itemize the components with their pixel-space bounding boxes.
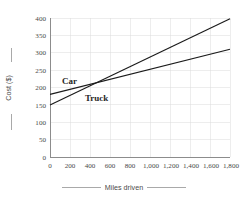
x-tick-label: 1,600 [203,162,219,170]
x-tick-label: 1,400 [183,162,199,170]
x-tick-label: 1,200 [163,162,179,170]
x-tick-label: 0 [48,162,52,170]
chart-container: 400 350 300 250 200 150 100 50 0 0 200 4… [0,0,248,200]
line-chart: 400 350 300 250 200 150 100 50 0 0 200 4… [0,0,248,200]
y-tick-label: 0 [42,154,46,162]
y-tick-label: 150 [35,102,46,110]
x-axis-title: Miles driven [105,183,143,192]
y-tick-label: 100 [35,119,46,127]
y-tick-label: 250 [35,67,46,75]
y-tick-labels: 400 350 300 250 200 150 100 50 0 [35,15,46,162]
x-tick-label: 400 [85,162,96,170]
y-axis-title: Cost ($) [4,75,13,101]
x-tick-label: 200 [65,162,76,170]
series-label-car: Car [62,76,77,86]
x-tick-label: 600 [105,162,116,170]
y-tick-label: 200 [35,84,46,92]
y-tick-label: 350 [35,32,46,40]
y-tick-label: 400 [35,15,46,23]
x-tick-label: 800 [125,162,136,170]
y-tick-label: 300 [35,49,46,57]
y-tick-label: 50 [39,136,47,144]
x-tick-labels: 0 200 400 600 800 1,000 1,200 1,400 1,60… [48,162,239,170]
x-tick-label: 1,800 [223,162,239,170]
x-tick-label: 1,000 [143,162,159,170]
series-label-truck: Truck [85,93,108,103]
